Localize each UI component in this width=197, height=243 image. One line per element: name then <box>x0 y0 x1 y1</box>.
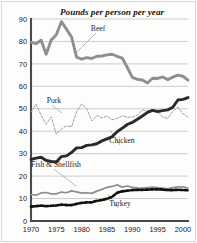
series-line-beef <box>31 22 188 83</box>
y-axis-ticks: 9080706050403020100 <box>19 15 27 226</box>
x-axis-ticks: 1970197519801985199019952000 <box>23 225 191 234</box>
leader-line-beef <box>76 33 96 53</box>
series-label-pork: Pork <box>47 96 62 105</box>
x-tick-label: 1970 <box>23 225 39 234</box>
chart-title: Pounds per person per year <box>60 7 165 17</box>
series-label-beef: Beef <box>91 24 106 33</box>
y-tick-label: 50 <box>19 104 27 113</box>
y-tick-label: 20 <box>19 172 27 181</box>
x-tick-label: 1975 <box>48 225 64 234</box>
y-tick-label: 10 <box>19 194 27 203</box>
gridlines <box>31 19 188 199</box>
y-tick-label: 40 <box>19 127 27 136</box>
y-tick-label: 60 <box>19 82 27 91</box>
x-tick-label: 1985 <box>99 225 115 234</box>
series-label-chicken: Chicken <box>109 136 135 145</box>
x-tick-label: 1980 <box>73 225 89 234</box>
x-tick-label: 1995 <box>149 225 165 234</box>
series-label-turkey: Turkey <box>109 199 131 208</box>
series-label-fish-shellfish: Fish & Shellfish <box>31 160 81 169</box>
x-tick-label: 1990 <box>124 225 140 234</box>
x-tick-label: 2000 <box>175 225 191 234</box>
y-tick-label: 80 <box>19 37 27 46</box>
chart-container: 9080706050403020100 19701975198019851990… <box>0 0 197 243</box>
y-tick-label: 70 <box>19 60 27 69</box>
series-lines <box>31 22 188 207</box>
y-tick-label: 30 <box>19 149 27 158</box>
y-tick-label: 90 <box>19 15 27 24</box>
leader-line-fish-shellfish <box>54 169 76 186</box>
line-chart: 9080706050403020100 19701975198019851990… <box>0 0 197 243</box>
